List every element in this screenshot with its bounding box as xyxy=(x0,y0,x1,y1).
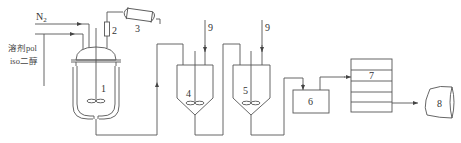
unit-label-6: 6 xyxy=(308,96,313,107)
unit-7-body xyxy=(351,59,392,112)
solvent-pipe xyxy=(75,34,83,50)
column-2: 2 xyxy=(105,12,124,48)
reactor-1: 1 xyxy=(71,28,183,135)
condenser-3: 3 xyxy=(123,7,160,34)
unit-6: 6 xyxy=(293,77,351,113)
feed-label-9a: 9 xyxy=(208,22,213,33)
unit-label-4: 4 xyxy=(186,88,191,99)
unit-label-1: 1 xyxy=(101,83,106,94)
condenser-3-body xyxy=(123,8,155,22)
unit-label-3: 3 xyxy=(135,23,140,34)
reactor-jacket-left xyxy=(73,67,93,119)
reactor-impeller-left xyxy=(87,99,96,103)
tank-5-body xyxy=(233,65,270,115)
unit-label-7: 7 xyxy=(369,70,374,81)
unit-label-8: 8 xyxy=(437,98,442,109)
unit-7: 7 xyxy=(351,59,418,112)
product-8: 8 xyxy=(425,86,454,118)
solvent-label-line1: 溶剂pol xyxy=(8,43,38,53)
unit-label-2: 2 xyxy=(112,25,117,36)
tank-5: 9 5 xyxy=(233,20,303,135)
reactor-inner-left xyxy=(77,66,94,119)
tank-4: 9 4 xyxy=(177,20,240,135)
solvent-label-line2: iso二醇 xyxy=(10,56,38,66)
vapor-line xyxy=(107,12,123,22)
nitrogen-label: N2 xyxy=(36,11,47,24)
pipe-6-to-7 xyxy=(320,77,345,90)
reactor-impeller-right xyxy=(96,99,105,103)
column-2-body xyxy=(105,22,110,36)
process-flow-diagram: N2 溶剂pol iso二醇 1 2 xyxy=(0,0,461,143)
feed-label-9b: 9 xyxy=(265,22,270,33)
condenser-outlet xyxy=(156,19,160,24)
nitrogen-input: N2 xyxy=(35,11,89,48)
unit-label-5: 5 xyxy=(243,85,248,96)
